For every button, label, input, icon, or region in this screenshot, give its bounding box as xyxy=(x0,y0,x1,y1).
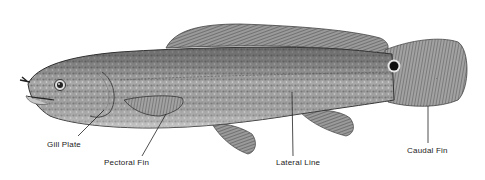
caudal-fin xyxy=(385,39,467,106)
pectoral-fin-label: Pectoral Fin xyxy=(104,158,149,167)
fish-diagram: Gill Plate Pectoral Fin Lateral Line Cau… xyxy=(0,0,485,180)
gill-plate-label: Gill Plate xyxy=(47,140,81,149)
lateral-line-label: Lateral Line xyxy=(276,158,320,167)
nostril-tube xyxy=(20,77,30,82)
caudal-fin-label: Caudal Fin xyxy=(407,146,448,155)
anal-fin xyxy=(300,110,353,136)
pelvic-fin xyxy=(212,123,255,154)
